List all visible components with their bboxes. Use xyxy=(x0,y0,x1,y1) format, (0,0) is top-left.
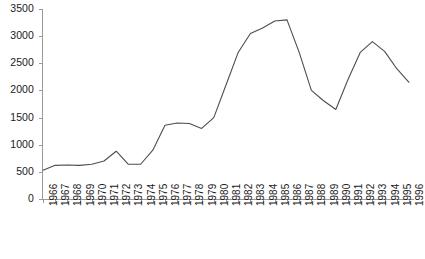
x-axis-tick-label: 1978 xyxy=(194,184,205,206)
x-axis-tick-label: 1988 xyxy=(316,184,327,206)
x-axis-tick-label: 1975 xyxy=(158,184,169,206)
series-line-1 xyxy=(43,20,409,170)
x-axis-tick-label: 1982 xyxy=(243,184,254,206)
x-axis-tick-label: 1972 xyxy=(121,184,132,206)
y-axis-tick-label: 2500 xyxy=(0,56,34,68)
x-axis-tick-label: 1979 xyxy=(207,184,218,206)
x-axis-tick-label: 1973 xyxy=(133,184,144,206)
x-axis-tick-label: 1991 xyxy=(353,184,364,206)
x-axis-tick-label: 1995 xyxy=(402,184,413,206)
x-axis-tick-label: 1985 xyxy=(280,184,291,206)
y-axis-tick-label: 1000 xyxy=(0,138,34,150)
x-axis-tick-label: 1971 xyxy=(109,184,120,206)
x-axis-tick-label: 1981 xyxy=(231,184,242,206)
y-axis-tick-label: 1500 xyxy=(0,111,34,123)
y-axis-tick-label: 2000 xyxy=(0,83,34,95)
x-axis-tick-label: 1970 xyxy=(97,184,108,206)
x-axis-tick-label: 1983 xyxy=(255,184,266,206)
x-axis-tick-label: 1986 xyxy=(292,184,303,206)
x-axis-tick-label: 1989 xyxy=(329,184,340,206)
x-axis-tick-label: 1969 xyxy=(85,184,96,206)
x-axis-tick-label: 1993 xyxy=(377,184,388,206)
x-axis-tick-label: 1966 xyxy=(48,184,59,206)
x-axis-tick-label: 1980 xyxy=(219,184,230,206)
x-axis-tick-label: 1977 xyxy=(182,184,193,206)
x-axis-tick-label: 1990 xyxy=(341,184,352,206)
x-axis-tick-label: 1994 xyxy=(390,184,401,206)
x-axis-tick-label: 1992 xyxy=(365,184,376,206)
x-axis-tick-label: 1984 xyxy=(268,184,279,206)
x-axis-tick-label: 1974 xyxy=(146,184,157,206)
y-axis-tick-label: 3000 xyxy=(0,29,34,41)
x-axis-tick-label: 1968 xyxy=(72,184,83,206)
y-axis-tick-label: 0 xyxy=(0,192,34,204)
x-axis-tick-label: 1996 xyxy=(414,184,425,206)
y-axis xyxy=(39,9,43,200)
y-axis-tick-label: 500 xyxy=(0,165,34,177)
y-axis-tick-label: 3500 xyxy=(0,2,34,14)
x-axis-tick-label: 1987 xyxy=(304,184,315,206)
x-axis-tick-label: 1976 xyxy=(170,184,181,206)
x-axis-tick-label: 1967 xyxy=(60,184,71,206)
